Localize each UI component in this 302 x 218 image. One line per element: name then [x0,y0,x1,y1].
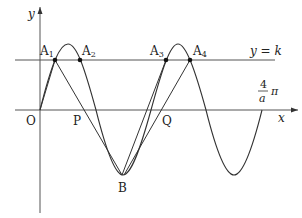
axes [15,7,298,213]
segment-B-A3 [122,60,166,175]
point-A3 [164,58,169,63]
label-A4: A4 [192,44,207,59]
point-A2 [78,58,83,63]
label-B: B [118,181,127,195]
label-y: y [27,7,35,21]
label-O: O [26,114,36,128]
frac-numerator: 4 [260,78,267,91]
segment-O-A1 [40,60,55,110]
label-A1: A1 [39,44,54,59]
frac-denominator: a [259,92,266,105]
diagram: y x O P Q B A1 A2 A3 A4 y = k 4 a π [0,0,302,218]
label-P: P [73,114,81,128]
label-A2: A2 [81,44,96,59]
label-Q: Q [162,114,172,128]
x-axis-arrow [291,108,298,113]
y-axis-arrow [38,7,43,14]
segment-A1-B [55,60,122,175]
labels: y x O P Q B A1 A2 A3 A4 y = k 4 a π [26,7,285,195]
pi-symbol: π [270,85,279,98]
label-A3: A3 [149,44,164,59]
label-x: x [278,111,285,125]
label-y-equals-k: y = k [249,44,282,58]
segment-B-A4 [124,60,190,175]
point-A4 [188,58,193,63]
